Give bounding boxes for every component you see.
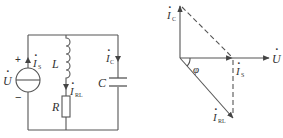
rl-current-dot: ·: [71, 77, 75, 89]
phasor-diagram: [180, 6, 269, 118]
phasor-irl-sub: RL: [218, 118, 226, 124]
inductor: [66, 35, 70, 82]
plus-sign: +: [15, 54, 21, 65]
minus-sign: −: [15, 91, 21, 103]
cap-current-sub: C: [110, 59, 114, 65]
phasor-ic-dot: ·: [168, 1, 172, 13]
capacitor: [109, 78, 127, 86]
phasor-is-sub: S: [241, 72, 244, 78]
resistor: [62, 96, 70, 117]
source-current-arrow-icon: [25, 57, 31, 63]
angle-arc: [187, 58, 190, 66]
angle-label: φ: [193, 63, 199, 75]
rl-current-arrow-icon: [63, 84, 69, 90]
phasor-irl-dot: ·: [214, 103, 218, 115]
phasor-ic-sub: C: [172, 16, 176, 22]
diagram-canvas: + − U · I · S L I · RL R C I · C I: [0, 0, 283, 138]
capacitor-label: C: [98, 76, 107, 90]
source-current-dot: ·: [34, 49, 38, 61]
rl-current-sub: RL: [75, 92, 83, 98]
inductor-label: L: [51, 57, 59, 71]
source-current-sub: S: [38, 64, 41, 70]
phasor-u-dot: ·: [275, 43, 279, 55]
inductor-coil: [66, 35, 70, 82]
cap-current-arrow-icon: [115, 56, 121, 62]
source-voltage-dot: ·: [6, 65, 10, 77]
dashed-ic-to-is: [182, 7, 231, 56]
resistor-label: R: [51, 100, 60, 114]
cap-current-dot: ·: [107, 44, 111, 56]
phasor-is-dot: ·: [237, 57, 241, 69]
phasor-irl: [180, 58, 233, 118]
